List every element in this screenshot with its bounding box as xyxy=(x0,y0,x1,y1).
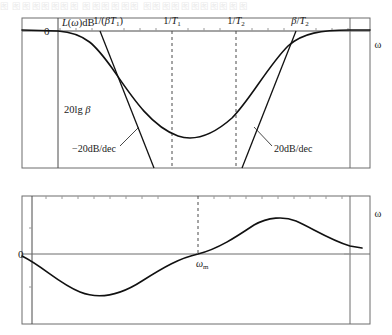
slope-label-plus-20db-per-dec: 20dB/dec xyxy=(274,143,313,154)
depth-label-20lg-beta: 20lg β xyxy=(64,104,91,115)
phase-response-curve xyxy=(22,218,362,296)
magnitude-plot: L(ω)dB 0 ω 1/(βT1) 1/T1 1/T2 β/T2 20lg β… xyxy=(0,0,392,180)
magnitude-zero-label: 0 xyxy=(44,25,50,37)
magnitude-x-axis-label: ω xyxy=(375,39,382,50)
corner-label-1-over-T2: 1/T2 xyxy=(227,15,245,28)
corner-label-1-over-beta-T1: 1/(βT1) xyxy=(93,15,123,28)
bode-plot-figure: 图 图图图图图图图 图图图图图图 图图图图图图图图图图图 xyxy=(0,0,392,335)
leader-line-minus-20db xyxy=(120,127,139,146)
phase-axis-ticks xyxy=(29,228,350,287)
phase-zero-label: 0 xyxy=(18,248,24,260)
magnitude-response-curve xyxy=(22,30,370,138)
phase-x-axis-label: ω xyxy=(375,208,382,219)
magnitude-y-axis-label: L(ω)dB xyxy=(61,17,95,29)
phase-plot: φ(ω)(°) 0 ω ωm=1/(β T) ωm xyxy=(0,195,392,335)
slope-label-minus-20db-per-dec: −20dB/dec xyxy=(72,143,117,154)
crossing-frequency-marker: ωm xyxy=(196,258,209,271)
corner-label-1-over-T1: 1/T1 xyxy=(163,15,181,28)
corner-label-beta-over-T2: β/T2 xyxy=(290,15,309,28)
leader-line-plus-20db xyxy=(254,127,272,146)
